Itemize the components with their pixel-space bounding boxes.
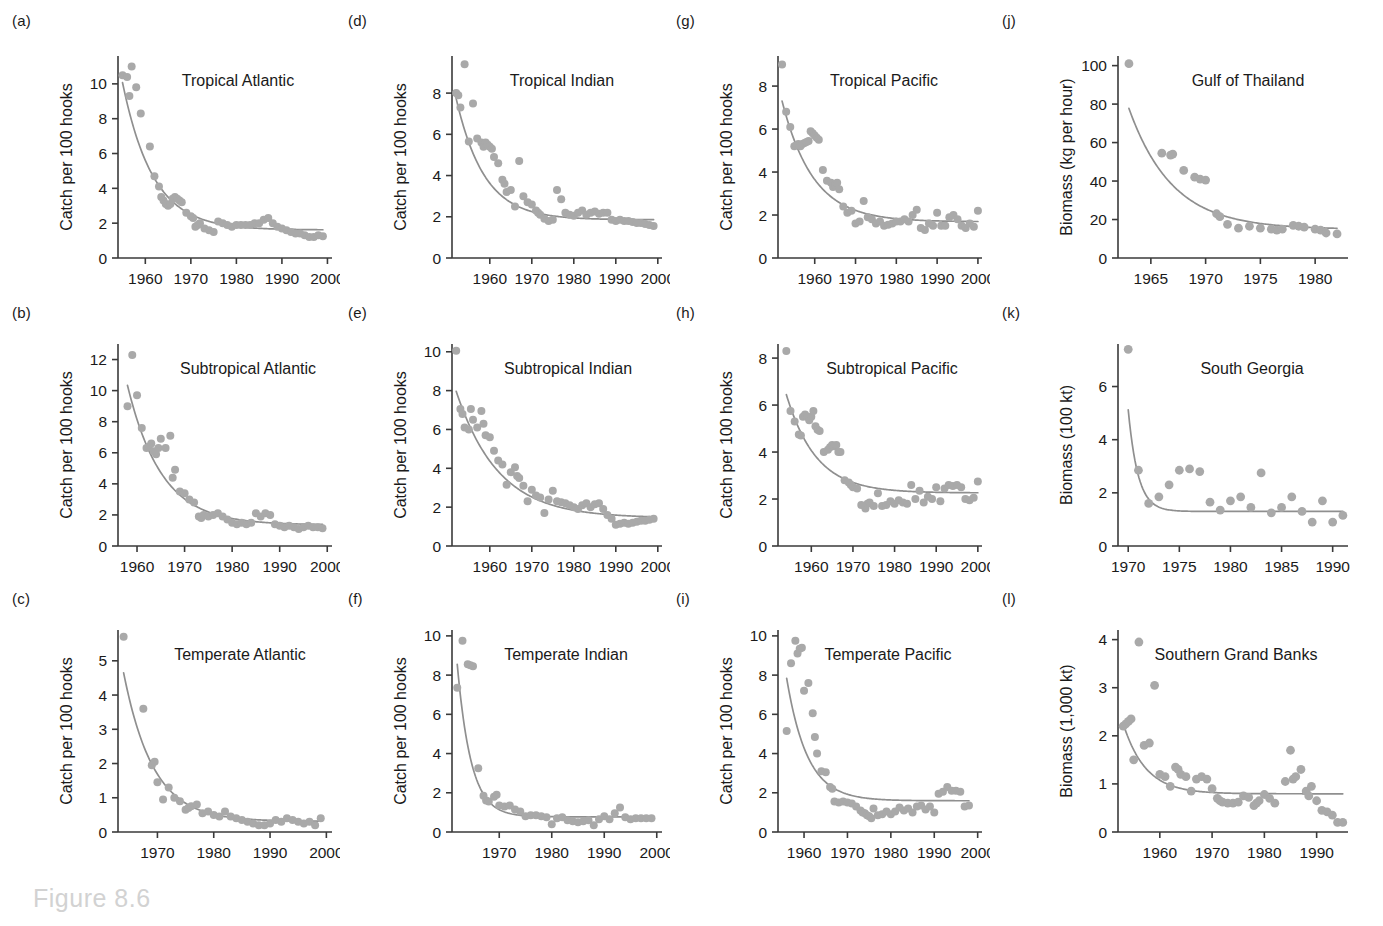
svg-text:0: 0 (758, 538, 767, 555)
svg-text:1980: 1980 (879, 270, 914, 287)
svg-text:1980: 1980 (219, 270, 254, 287)
svg-text:Gulf of Thailand: Gulf of Thailand (1192, 72, 1305, 89)
svg-text:1990: 1990 (599, 558, 634, 575)
svg-text:1980: 1980 (557, 270, 592, 287)
svg-text:Catch per 100 hooks: Catch per 100 hooks (718, 371, 735, 519)
svg-text:1970: 1970 (836, 558, 871, 575)
svg-text:2000: 2000 (641, 558, 670, 575)
svg-text:4: 4 (432, 167, 441, 184)
svg-text:Southern Grand Banks: Southern Grand Banks (1155, 646, 1318, 663)
svg-text:0: 0 (432, 250, 441, 267)
svg-text:6: 6 (432, 706, 441, 723)
svg-text:1975: 1975 (1243, 270, 1277, 287)
svg-text:0: 0 (1098, 250, 1107, 267)
panel-label-f: (f) (348, 590, 363, 607)
svg-text:1990: 1990 (265, 270, 300, 287)
svg-text:10: 10 (424, 627, 442, 644)
panel-e: (e)024681019601970198019902000Catch per … (340, 296, 670, 584)
panel-c: (c)0123451970198019902000Catch per 100 h… (0, 584, 340, 870)
svg-text:1960: 1960 (473, 558, 508, 575)
svg-text:1960: 1960 (120, 558, 155, 575)
svg-text:10: 10 (424, 343, 442, 360)
svg-text:Catch per 100 hooks: Catch per 100 hooks (58, 657, 75, 805)
svg-text:4: 4 (432, 745, 441, 762)
svg-text:1960: 1960 (1143, 844, 1178, 861)
svg-text:1980: 1980 (557, 558, 592, 575)
panel-label-c: (c) (12, 590, 30, 607)
figure-caption: Figure 8.6 (33, 884, 151, 913)
svg-text:1985: 1985 (1264, 558, 1298, 575)
svg-text:1970: 1970 (1195, 844, 1230, 861)
svg-text:2000: 2000 (310, 558, 340, 575)
svg-text:Subtropical Pacific: Subtropical Pacific (826, 360, 958, 377)
figure-panel-grid: (a)024681019601970198019902000Catch per … (0, 0, 1383, 870)
svg-text:6: 6 (432, 421, 441, 438)
svg-text:1970: 1970 (515, 558, 550, 575)
svg-text:8: 8 (432, 382, 441, 399)
svg-text:0: 0 (432, 538, 441, 555)
panel-d: (d)0246819601970198019902000Catch per 10… (340, 0, 670, 296)
svg-text:8: 8 (432, 85, 441, 102)
panel-label-i: (i) (676, 590, 690, 607)
svg-text:Temperate Pacific: Temperate Pacific (824, 646, 951, 663)
svg-text:0: 0 (1098, 538, 1107, 555)
svg-text:2: 2 (758, 784, 767, 801)
svg-text:Catch per 100 hooks: Catch per 100 hooks (392, 83, 409, 231)
svg-text:2000: 2000 (309, 844, 340, 861)
svg-text:Temperate Atlantic: Temperate Atlantic (174, 646, 306, 663)
svg-text:0: 0 (98, 824, 107, 841)
svg-text:6: 6 (98, 145, 107, 162)
svg-text:4: 4 (758, 444, 767, 461)
svg-text:South Georgia: South Georgia (1200, 360, 1303, 377)
svg-text:1975: 1975 (1162, 558, 1196, 575)
svg-text:Catch per 100 hooks: Catch per 100 hooks (392, 371, 409, 519)
panel-label-e: (e) (348, 304, 367, 321)
svg-text:2000: 2000 (640, 844, 670, 861)
panel-i: (i)024681019601970198019902000Catch per … (670, 584, 990, 870)
svg-text:4: 4 (1098, 631, 1107, 648)
svg-text:6: 6 (1098, 378, 1107, 395)
panel-label-b: (b) (12, 304, 31, 321)
svg-text:Biomass (kg per hour): Biomass (kg per hour) (1058, 78, 1075, 235)
svg-text:1: 1 (98, 789, 107, 806)
svg-text:10: 10 (750, 627, 768, 644)
svg-text:4: 4 (758, 164, 767, 181)
svg-text:1960: 1960 (473, 270, 508, 287)
panel-f: (f)02468101970198019902000Catch per 100 … (340, 584, 670, 870)
svg-text:2: 2 (98, 506, 107, 523)
svg-text:1990: 1990 (262, 558, 297, 575)
svg-text:4: 4 (1098, 431, 1107, 448)
svg-text:8: 8 (758, 78, 767, 95)
svg-text:2000: 2000 (310, 270, 340, 287)
svg-text:2: 2 (98, 215, 107, 232)
svg-text:0: 0 (98, 538, 107, 555)
svg-text:2000: 2000 (961, 558, 990, 575)
svg-text:1980: 1980 (1247, 844, 1282, 861)
svg-text:2: 2 (432, 208, 441, 225)
svg-text:2: 2 (432, 499, 441, 516)
svg-text:Subtropical Indian: Subtropical Indian (504, 360, 632, 377)
panel-label-k: (k) (1002, 304, 1020, 321)
svg-text:60: 60 (1090, 134, 1108, 151)
svg-text:1980: 1980 (877, 558, 912, 575)
svg-text:0: 0 (98, 250, 107, 267)
panel-label-h: (h) (676, 304, 695, 321)
svg-text:1970: 1970 (1111, 558, 1146, 575)
svg-text:1990: 1990 (1315, 558, 1350, 575)
svg-text:4: 4 (432, 460, 441, 477)
panel-label-g: (g) (676, 12, 695, 29)
svg-text:1970: 1970 (140, 844, 175, 861)
svg-text:2: 2 (758, 491, 767, 508)
svg-text:6: 6 (758, 706, 767, 723)
svg-text:10: 10 (90, 382, 108, 399)
svg-text:1990: 1990 (599, 270, 634, 287)
svg-text:80: 80 (1090, 96, 1108, 113)
svg-text:0: 0 (1098, 824, 1107, 841)
svg-text:1960: 1960 (794, 558, 829, 575)
svg-text:1990: 1990 (587, 844, 622, 861)
svg-text:1980: 1980 (874, 844, 909, 861)
svg-text:1990: 1990 (1299, 844, 1334, 861)
svg-text:1980: 1980 (196, 844, 231, 861)
svg-text:Catch per 100 hooks: Catch per 100 hooks (58, 83, 75, 231)
svg-text:8: 8 (432, 667, 441, 684)
